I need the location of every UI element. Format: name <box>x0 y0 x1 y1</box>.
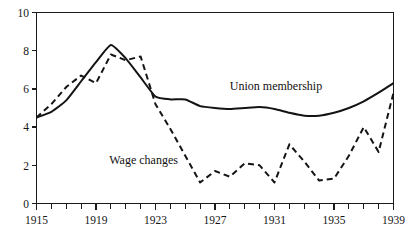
x-tick-label: 1935 <box>323 214 346 226</box>
x-tick-label: 1939 <box>382 214 405 226</box>
series-line-wage-changes <box>37 55 394 183</box>
x-tick-label: 1927 <box>204 214 227 226</box>
y-tick-label: 2 <box>23 160 29 172</box>
chart-container: 0246810 1915191919231927193119351939 Uni… <box>0 0 410 235</box>
y-tick-label: 8 <box>23 45 29 57</box>
x-tick-label: 1915 <box>25 214 48 226</box>
y-tick-label: 10 <box>18 7 30 19</box>
x-tick-label: 1931 <box>263 214 286 226</box>
annotation-wage-changes: Wage changes <box>109 153 178 167</box>
x-axis-tick-labels: 1915191919231927193119351939 <box>25 214 405 226</box>
x-tick-label: 1919 <box>85 214 108 226</box>
series-line-union-membership <box>37 45 394 118</box>
series-group <box>37 45 394 183</box>
x-axis-ticks <box>37 204 394 211</box>
series-annotations: Union membershipWage changes <box>109 79 322 167</box>
y-tick-label: 0 <box>23 198 29 210</box>
y-tick-label: 6 <box>23 83 29 95</box>
x-tick-label: 1923 <box>144 214 167 226</box>
y-axis-tick-labels: 0246810 <box>18 7 30 210</box>
y-tick-label: 4 <box>23 121 29 133</box>
line-chart: 0246810 1915191919231927193119351939 Uni… <box>0 0 410 235</box>
annotation-union-membership: Union membership <box>230 79 322 93</box>
